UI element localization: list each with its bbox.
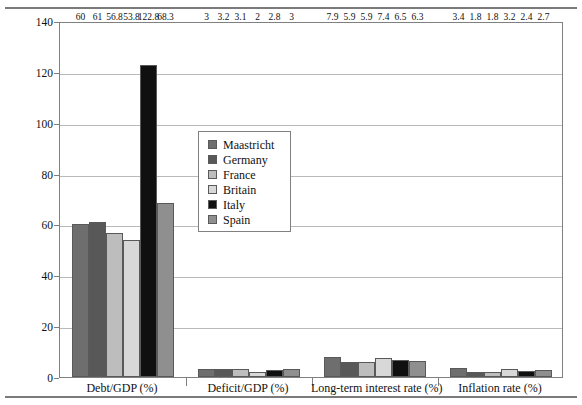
legend-item[interactable]: Maastricht	[199, 137, 290, 152]
x-axis-category-label: Deficit/GDP (%)	[185, 381, 311, 396]
bar-group-bars: 3.41.81.83.22.42.7	[438, 23, 564, 377]
bar-value-label: 2.4	[521, 13, 533, 23]
bar-value-label: 3.4	[453, 13, 465, 23]
bar[interactable]: 53.8	[123, 240, 140, 377]
bar-value-label: 6.3	[412, 13, 424, 23]
legend-swatch-icon	[208, 140, 217, 149]
legend-swatch-icon	[208, 170, 217, 179]
bar-value-label: 122.8	[138, 13, 159, 23]
bar-slot: 7.4	[375, 23, 392, 377]
bar-value-label: 5.9	[344, 13, 356, 23]
bar[interactable]: 6.3	[409, 361, 426, 377]
legend-swatch-icon	[208, 155, 217, 164]
bar-group: 606156.853.8122.868.3	[60, 23, 186, 377]
bar[interactable]: 3.1	[232, 369, 249, 377]
bar[interactable]: 56.8	[106, 233, 123, 377]
bar-value-label: 3.1	[235, 13, 247, 23]
bar-value-label: 7.4	[378, 13, 390, 23]
bar-slot: 1.8	[467, 23, 484, 377]
legend-item[interactable]: Spain	[199, 212, 290, 227]
bar-value-label: 2	[255, 13, 260, 23]
bar[interactable]: 7.9	[324, 357, 341, 377]
bar-slot: 53.8	[123, 23, 140, 377]
y-axis-tick-label: 60	[13, 219, 53, 231]
bar-slot: 122.8	[140, 23, 157, 377]
bar-slot: 3.4	[450, 23, 467, 377]
bar[interactable]: 2.4	[518, 371, 535, 377]
bar-value-label: 2.8	[269, 13, 281, 23]
bar[interactable]: 3.4	[450, 368, 467, 377]
x-axis-category-label: Long-term interest rate (%)	[311, 381, 437, 396]
y-axis-tick-label: 140	[13, 16, 53, 28]
bar[interactable]: 1.8	[484, 372, 501, 377]
bar[interactable]: 2.7	[535, 370, 552, 377]
bar-group-bars: 7.95.95.97.46.56.3	[312, 23, 438, 377]
bar-slot: 5.9	[358, 23, 375, 377]
bar-slot: 61	[89, 23, 106, 377]
bar-value-label: 3	[204, 13, 209, 23]
bar-slot: 2.4	[518, 23, 535, 377]
bar-slot: 7.9	[324, 23, 341, 377]
bar-value-label: 56.8	[106, 13, 123, 23]
bar-slot: 6.3	[409, 23, 426, 377]
legend-item[interactable]: France	[199, 167, 290, 182]
bar-slot: 56.8	[106, 23, 123, 377]
bar-value-label: 7.9	[327, 13, 339, 23]
bar-slot: 2.7	[535, 23, 552, 377]
bar-slot: 3.2	[501, 23, 518, 377]
bar-slot: 60	[72, 23, 89, 377]
y-axis-tick-label: 20	[13, 321, 53, 333]
legend-item[interactable]: Germany	[199, 152, 290, 167]
y-axis-tick-label: 120	[13, 67, 53, 79]
legend-swatch-icon	[208, 200, 217, 209]
bar[interactable]: 5.9	[358, 362, 375, 377]
bar-value-label: 5.9	[361, 13, 373, 23]
bar[interactable]: 1.8	[467, 372, 484, 377]
y-axis-tick-label: 100	[13, 118, 53, 130]
chart-figure: Economic yardsticks (%) 0204060801001201…	[0, 0, 582, 405]
legend-item-label: Italy	[223, 199, 245, 211]
bar[interactable]: 2	[249, 372, 266, 377]
plot-area: 606156.853.8122.868.333.23.122.837.95.95…	[59, 22, 563, 378]
bar-group: 7.95.95.97.46.56.3	[312, 23, 438, 377]
legend: MaastrichtGermanyFranceBritainItalySpain	[198, 131, 291, 232]
bar-value-label: 2.7	[538, 13, 550, 23]
legend-swatch-icon	[208, 185, 217, 194]
bar[interactable]: 6.5	[392, 360, 409, 377]
bar-value-label: 3.2	[504, 13, 516, 23]
bar-value-label: 68.3	[157, 13, 174, 23]
bar[interactable]: 7.4	[375, 358, 392, 377]
bar[interactable]: 61	[89, 222, 106, 377]
bar[interactable]: 60	[72, 224, 89, 377]
legend-swatch-icon	[208, 215, 217, 224]
bar[interactable]: 3	[283, 369, 300, 377]
bar-value-label: 1.8	[470, 13, 482, 23]
bar-value-label: 1.8	[487, 13, 499, 23]
bar[interactable]: 3.2	[501, 369, 518, 377]
legend-item-label: Germany	[223, 154, 268, 166]
top-divider-rule	[5, 7, 577, 9]
bar[interactable]: 3	[198, 369, 215, 377]
bar-value-label: 3.2	[218, 13, 230, 23]
bar-value-label: 6.5	[395, 13, 407, 23]
bar[interactable]: 3.2	[215, 369, 232, 377]
bar[interactable]: 122.8	[140, 65, 157, 377]
y-axis-tick-mark	[54, 378, 59, 379]
y-axis-tick-label: 80	[13, 169, 53, 181]
bar-slot: 68.3	[157, 23, 174, 377]
bar-value-label: 61	[93, 13, 103, 23]
bar-value-label: 60	[76, 13, 86, 23]
legend-item-label: Maastricht	[223, 139, 274, 151]
bar[interactable]: 5.9	[341, 362, 358, 377]
bar-group: 3.41.81.83.22.42.7	[438, 23, 564, 377]
legend-item[interactable]: Italy	[199, 197, 290, 212]
legend-item-label: Spain	[223, 214, 250, 226]
bar[interactable]: 68.3	[157, 203, 174, 377]
legend-item-label: Britain	[223, 184, 256, 196]
y-axis-tick-label: 40	[13, 270, 53, 282]
bar-group-bars: 606156.853.8122.868.3	[60, 23, 186, 377]
bar-slot: 5.9	[341, 23, 358, 377]
legend-item[interactable]: Britain	[199, 182, 290, 197]
bar[interactable]: 2.8	[266, 370, 283, 377]
bottom-divider-rule	[5, 396, 577, 398]
